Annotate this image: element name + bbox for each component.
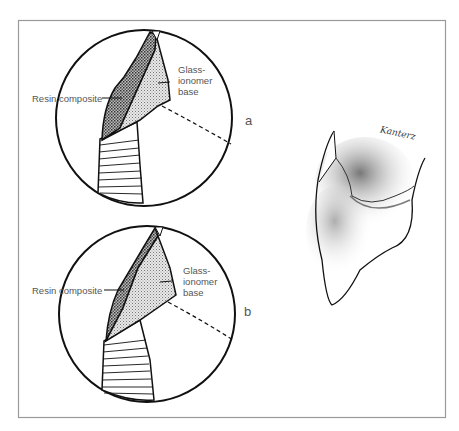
panel-tag-a: a: [245, 113, 252, 128]
label-resin-composite-a: Resin composite: [32, 93, 102, 104]
label-line: ionomer: [178, 75, 212, 86]
panel-a: [56, 30, 232, 206]
label-resin-composite-b: Resin composite: [32, 285, 102, 296]
label-line: Glass-: [183, 265, 217, 276]
label-line: base: [183, 287, 217, 298]
label-line: ionomer: [183, 276, 217, 287]
panel-tag-b: b: [244, 304, 251, 319]
panel-b: [59, 226, 235, 402]
label-line: base: [178, 86, 212, 97]
label-glass-ionomer-a: Glass- ionomer base: [178, 64, 212, 97]
dental-diagram: [0, 0, 459, 431]
label-line: Glass-: [178, 64, 212, 75]
label-glass-ionomer-b: Glass- ionomer base: [183, 265, 217, 298]
tooth-illustration: [306, 131, 425, 305]
